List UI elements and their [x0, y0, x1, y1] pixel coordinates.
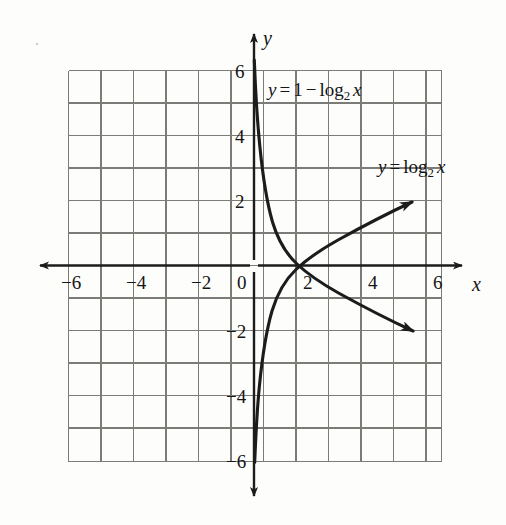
x-axis-label: x	[472, 274, 481, 294]
curve1-log: log	[319, 79, 343, 100]
curve-log2x	[255, 202, 412, 463]
curve2-arg: x	[437, 156, 445, 177]
coordinate-plane	[0, 0, 506, 525]
graph-figure: y x −6 −4 −2 0 2 4 6 6 4 2 −2 −4 −6 y=1−…	[0, 0, 506, 525]
x-tick-label--6: −6	[61, 273, 81, 292]
y-tick-label--2: −2	[226, 322, 246, 341]
curve1-const: 1	[293, 79, 303, 100]
curve1-equals: =	[276, 79, 293, 100]
y-tick-label-2: 2	[235, 192, 245, 211]
y-tick-label--6: −6	[226, 452, 246, 471]
y-tick-label-6: 6	[235, 62, 245, 81]
curve1-base: 2	[344, 88, 350, 103]
curve1-minus: −	[303, 79, 320, 100]
curve-label-log2x: y=log2x	[378, 157, 445, 180]
curve2-equals: =	[386, 156, 403, 177]
x-tick-label-4: 4	[368, 273, 378, 292]
x-tick-label-2: 2	[303, 273, 313, 292]
x-tick-label-0: 0	[237, 273, 247, 292]
y-axis-label: y	[263, 28, 272, 48]
x-tick-label--2: −2	[191, 273, 211, 292]
y-tick-label--4: −4	[226, 387, 246, 406]
x-tick-label-6: 6	[433, 273, 443, 292]
x-tick-label--4: −4	[126, 273, 146, 292]
y-tick-label-4: 4	[235, 127, 245, 146]
curve2-base: 2	[427, 165, 433, 180]
curve2-log: log	[403, 156, 427, 177]
curve-label-1-minus-log2x: y=1−log2x	[268, 80, 362, 103]
curve1-arg: x	[353, 79, 361, 100]
